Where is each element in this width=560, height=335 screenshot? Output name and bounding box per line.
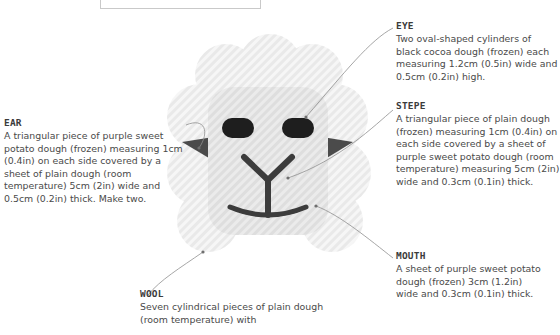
right-eye — [282, 118, 314, 138]
left-eye — [222, 118, 254, 138]
annotation-mouth-title: MOUTH — [396, 250, 546, 262]
annotation-stepe-title: STEPE — [396, 100, 560, 112]
diagram-canvas: EAR A triangular piece of purple sweet p… — [0, 0, 560, 335]
annotation-stepe-body: A triangular piece of plain dough (froze… — [396, 113, 560, 189]
annotation-eye-body: Two oval-shaped cylinders of black cocoa… — [396, 33, 558, 83]
annotation-ear-body: A triangular piece of purple sweet potat… — [4, 130, 184, 206]
annotation-eye-title: EYE — [396, 20, 558, 32]
annotation-ear-title: EAR — [4, 117, 184, 129]
annotation-mouth: MOUTH A sheet of purple sweet potato dou… — [396, 250, 546, 301]
annotation-ear: EAR A triangular piece of purple sweet p… — [4, 117, 184, 206]
top-frame-box — [100, 0, 261, 9]
annotation-wool-title: WOOL — [140, 288, 345, 300]
annotation-wool: WOOL Seven cylindrical pieces of plain d… — [140, 288, 345, 326]
annotation-mouth-body: A sheet of purple sweet potato dough (fr… — [396, 263, 546, 301]
annotation-stepe: STEPE A triangular piece of plain dough … — [396, 100, 560, 189]
annotation-eye: EYE Two oval-shaped cylinders of black c… — [396, 20, 558, 83]
annotation-wool-body: Seven cylindrical pieces of plain dough … — [140, 301, 345, 326]
sheep-face-illustration — [160, 25, 375, 265]
